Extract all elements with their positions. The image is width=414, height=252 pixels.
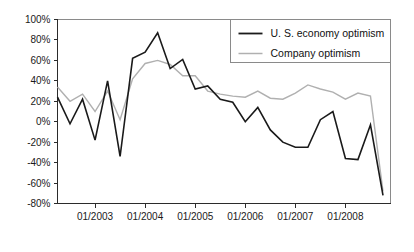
x-tick-label: 01/2004	[127, 211, 164, 222]
y-tick-label: -80%	[27, 198, 50, 209]
y-tick-label: -40%	[27, 157, 50, 168]
y-tick-label: 80%	[30, 34, 50, 45]
y-tick-label: 60%	[30, 55, 50, 66]
chart-legend: U. S. economy optimismCompany optimism	[231, 20, 391, 63]
y-axis-tick-marks	[54, 20, 58, 204]
line-chart: 100%80%60%40%20%0%-20%-40%-60%-80% 01/20…	[0, 0, 414, 252]
x-tick-label: 01/2008	[327, 211, 364, 222]
legend-item: Company optimism	[239, 47, 361, 59]
x-tick-label: 01/2005	[177, 211, 214, 222]
x-tick-label: 01/2006	[227, 211, 264, 222]
y-tick-label: 20%	[30, 96, 50, 107]
x-tick-label: 01/2007	[277, 211, 314, 222]
legend-items: U. S. economy optimismCompany optimism	[239, 27, 385, 59]
y-tick-label: 40%	[30, 75, 50, 86]
x-axis-tick-marks	[95, 204, 345, 208]
legend-item-label: Company optimism	[271, 47, 361, 59]
y-tick-label: 0%	[36, 116, 51, 127]
x-tick-label: 01/2003	[77, 211, 114, 222]
legend-item: U. S. economy optimism	[239, 27, 385, 39]
y-tick-label: -60%	[27, 178, 50, 189]
y-tick-label: 100%	[25, 14, 51, 25]
legend-item-label: U. S. economy optimism	[271, 27, 385, 39]
x-axis-tick-labels: 01/200301/200401/200501/200601/200701/20…	[77, 211, 364, 222]
chart-container: 100%80%60%40%20%0%-20%-40%-60%-80% 01/20…	[0, 0, 414, 252]
series-line-company-optimism	[58, 60, 383, 191]
y-tick-label: -20%	[27, 137, 50, 148]
y-axis-tick-labels: 100%80%60%40%20%0%-20%-40%-60%-80%	[25, 14, 51, 209]
